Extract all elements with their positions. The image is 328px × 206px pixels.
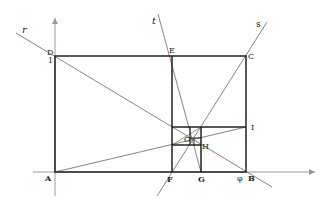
label-o: O — [184, 135, 191, 144]
label-r: r — [22, 24, 28, 35]
label-i: I — [251, 123, 254, 132]
label-f: F — [167, 174, 173, 184]
label-t: t — [152, 15, 157, 26]
golden-rectangle-diagram: r t s D 1 E C I O H A F G φ B — [0, 0, 328, 206]
label-s: s — [256, 19, 261, 29]
label-h: H — [202, 142, 209, 151]
label-one: 1 — [48, 56, 53, 65]
label-phi: φ — [237, 174, 243, 183]
line-t — [158, 14, 201, 172]
label-e: E — [169, 46, 175, 55]
label-b: B — [248, 173, 255, 183]
label-a: A — [44, 173, 52, 183]
line-ai — [55, 127, 246, 172]
label-g: G — [198, 174, 205, 184]
label-c: C — [248, 52, 254, 61]
